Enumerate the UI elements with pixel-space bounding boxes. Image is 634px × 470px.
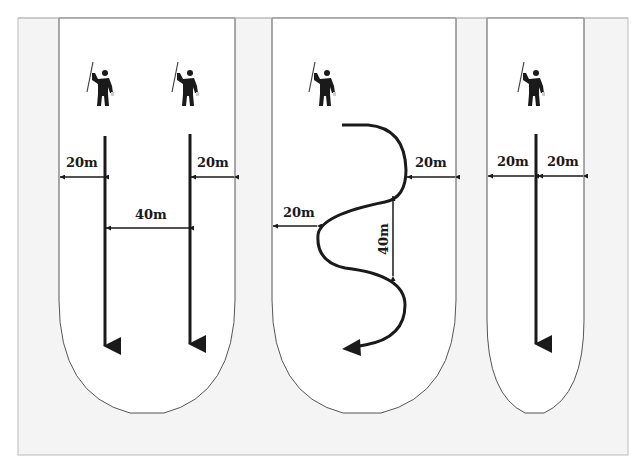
dimension-label: 20m bbox=[497, 154, 529, 169]
search-pattern-diagram: 20m 20m 40m 20m 20m 40m 20m 20m bbox=[0, 0, 634, 470]
dimension-label: 20m bbox=[66, 155, 98, 170]
dimension-label: 20m bbox=[415, 155, 447, 170]
dimension-label: 40m bbox=[376, 223, 391, 255]
dimension-label: 20m bbox=[197, 155, 229, 170]
dimension-label: 40m bbox=[135, 207, 167, 222]
dimension-label: 20m bbox=[547, 154, 579, 169]
dimension-label: 20m bbox=[283, 205, 315, 220]
